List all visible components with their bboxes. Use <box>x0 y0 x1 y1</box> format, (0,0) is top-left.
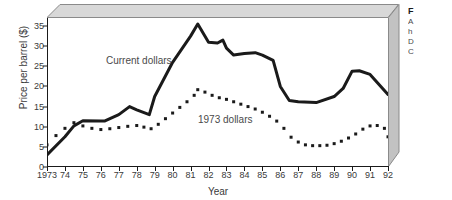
x-axis-tick-label: 89 <box>329 170 339 180</box>
x-axis-ticks: 1973747576777879808182838485868788899091… <box>0 0 452 200</box>
x-axis-title: Year <box>47 186 389 197</box>
x-axis-tick-label: 80 <box>168 170 178 180</box>
x-axis-tick-mark <box>155 167 156 171</box>
x-axis-tick-label: 84 <box>239 170 249 180</box>
x-axis-tick-mark <box>101 167 102 171</box>
side-caption-line: h <box>408 27 452 37</box>
series-annotation-1973-dollars: 1973 dollars <box>198 114 252 125</box>
x-axis-tick-mark <box>316 167 317 171</box>
side-caption: F A h D C <box>408 6 452 57</box>
x-axis-tick-label: 75 <box>78 170 88 180</box>
chart-figure: 05101520253035 1973747576777879808182838… <box>0 0 452 200</box>
x-axis-tick-mark <box>191 167 192 171</box>
x-axis-tick-label: 1973 <box>37 170 57 180</box>
x-axis-tick-label: 78 <box>132 170 142 180</box>
x-axis-tick-mark <box>352 167 353 171</box>
x-axis-tick-label: 86 <box>275 170 285 180</box>
x-axis-tick-label: 81 <box>186 170 196 180</box>
x-axis-tick-mark <box>262 167 263 171</box>
series-annotation-current-dollars: Current dollars <box>106 55 172 66</box>
x-axis-tick-mark <box>47 167 48 171</box>
x-axis-tick-label: 85 <box>257 170 267 180</box>
x-axis-tick-label: 90 <box>347 170 357 180</box>
x-axis-tick-mark <box>83 167 84 171</box>
side-caption-line: A <box>408 17 452 27</box>
x-axis-tick-mark <box>119 167 120 171</box>
x-axis-tick-mark <box>388 167 389 171</box>
x-axis-tick-mark <box>209 167 210 171</box>
x-axis-tick-mark <box>226 167 227 171</box>
side-caption-title: F <box>408 6 452 17</box>
x-axis-tick-mark <box>173 167 174 171</box>
x-axis-tick-label: 91 <box>365 170 375 180</box>
x-axis-tick-label: 87 <box>293 170 303 180</box>
side-caption-line: D <box>408 37 452 47</box>
y-axis-title: Price per barrel ($) <box>18 3 29 133</box>
x-axis-tick-label: 79 <box>150 170 160 180</box>
x-axis-tick-mark <box>298 167 299 171</box>
x-axis-tick-mark <box>370 167 371 171</box>
x-axis-tick-label: 88 <box>311 170 321 180</box>
x-axis-tick-label: 76 <box>96 170 106 180</box>
x-axis-tick-mark <box>280 167 281 171</box>
x-axis-tick-label: 77 <box>114 170 124 180</box>
x-axis-tick-label: 83 <box>221 170 231 180</box>
x-axis-tick-label: 92 <box>383 170 393 180</box>
x-axis-tick-mark <box>137 167 138 171</box>
x-axis-tick-mark <box>244 167 245 171</box>
x-axis-tick-label: 74 <box>60 170 70 180</box>
x-axis-tick-mark <box>65 167 66 171</box>
x-axis-tick-label: 82 <box>204 170 214 180</box>
side-caption-line: C <box>408 47 452 57</box>
x-axis-tick-mark <box>334 167 335 171</box>
